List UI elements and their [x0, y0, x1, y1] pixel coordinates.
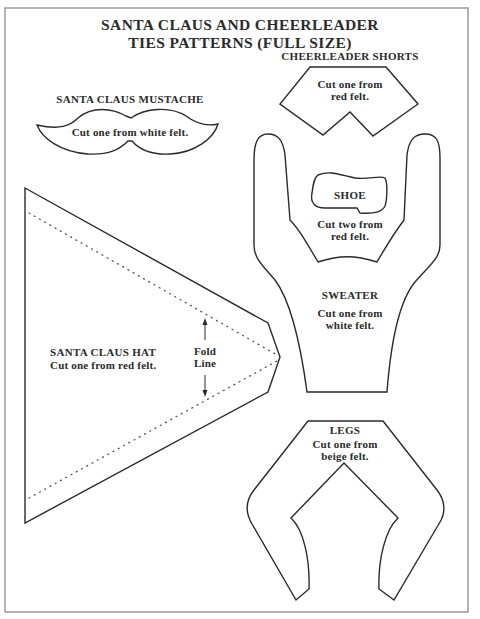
shorts-label: CHEERLEADER SHORTS [270, 50, 430, 62]
mustache-instruction: Cut one from white felt. [30, 126, 230, 138]
sweater-instruction: Cut one from white felt. [300, 307, 400, 331]
shoe-instruction: Cut two from red felt. [300, 218, 400, 242]
shoe-instruction-line-2: red felt. [300, 230, 400, 242]
page-title: SANTA CLAUS AND CHEERLEADER TIES PATTERN… [0, 16, 480, 52]
fold-arrow-down-icon [203, 375, 208, 397]
hat-dotted-line-bottom [29, 361, 277, 498]
hat-dotted-line-top [29, 213, 277, 355]
legs-instruction-line-1: Cut one from [295, 438, 395, 450]
legs-label: LEGS [315, 424, 375, 436]
fold-arrow-up-icon [203, 318, 208, 340]
shoe-instruction-line-1: Cut two from [300, 218, 400, 230]
pattern-page: SANTA CLAUS AND CHEERLEADER TIES PATTERN… [0, 0, 480, 619]
hat-instruction: Cut one from red felt. [50, 359, 180, 371]
shorts-instruction: Cut one from red felt. [300, 78, 400, 102]
fold-line-label-2: Line [185, 357, 225, 369]
sweater-instruction-line-1: Cut one from [300, 307, 400, 319]
shorts-instruction-line-2: red felt. [300, 90, 400, 102]
fold-line-label-1: Fold [185, 345, 225, 357]
legs-instruction-line-2: beige felt. [295, 450, 395, 462]
sweater-outline [254, 134, 440, 392]
sweater-label: SWEATER [300, 289, 400, 301]
legs-instruction: Cut one from beige felt. [295, 438, 395, 462]
title-line-1: SANTA CLAUS AND CHEERLEADER [0, 16, 480, 34]
sweater-instruction-line-2: white felt. [300, 319, 400, 331]
shoe-label: SHOE [320, 189, 380, 201]
fold-line-label: Fold Line [185, 345, 225, 369]
shorts-instruction-line-1: Cut one from [300, 78, 400, 90]
hat-label: SANTA CLAUS HAT [50, 346, 170, 358]
mustache-label: SANTA CLAUS MUSTACHE [30, 93, 230, 105]
